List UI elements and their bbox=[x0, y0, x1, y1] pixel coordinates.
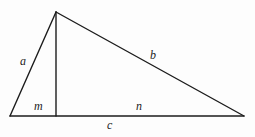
label-segment-m: m bbox=[34, 100, 43, 112]
label-side-a: a bbox=[20, 55, 26, 67]
triangle-diagram-svg bbox=[0, 0, 255, 137]
label-segment-n: n bbox=[136, 100, 142, 112]
triangle-side-a-line bbox=[10, 12, 56, 116]
label-base-c: c bbox=[107, 119, 112, 131]
label-side-b: b bbox=[150, 49, 156, 61]
geometry-figure: a b m n c bbox=[0, 0, 255, 137]
triangle-side-b-line bbox=[56, 12, 244, 116]
